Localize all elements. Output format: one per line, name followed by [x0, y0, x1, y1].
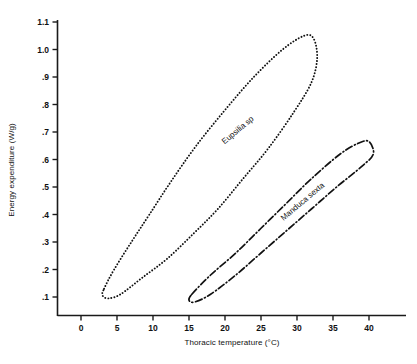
x-tick-label: 5 — [115, 323, 120, 333]
x-tick-label: 10 — [148, 323, 158, 333]
y-tick-label: .5 — [42, 182, 49, 192]
x-tick-label: 25 — [256, 323, 266, 333]
x-tick-label: 15 — [184, 323, 194, 333]
x-tick-label: 20 — [220, 323, 230, 333]
y-tick-label: .2 — [42, 265, 49, 275]
y-tick-label: .8 — [42, 100, 49, 110]
y-tick-label: .1 — [42, 292, 49, 302]
plot-background — [0, 0, 417, 364]
y-tick-label: .4 — [42, 210, 49, 220]
x-tick-label: 40 — [364, 323, 374, 333]
y-tick-label: 1.1 — [37, 17, 49, 27]
x-tick-label: 35 — [328, 323, 338, 333]
y-tick-label: .6 — [42, 155, 49, 165]
y-axis-title: Energy expenditure (W/g) — [7, 123, 16, 217]
y-tick-label: .9 — [42, 72, 49, 82]
x-tick-label: 30 — [292, 323, 302, 333]
scatter-plot-canvas: 1.11.0.9.8.7.6.5.4.3.2.1 051015202530354… — [0, 0, 417, 364]
y-tick-label: .7 — [42, 127, 49, 137]
x-axis-title: Thoracic temperature (°C) — [184, 338, 279, 347]
chart-figure: 1.11.0.9.8.7.6.5.4.3.2.1 051015202530354… — [0, 0, 417, 364]
y-tick-label: .3 — [42, 237, 49, 247]
y-tick-label: 1.0 — [37, 45, 49, 55]
x-tick-label: 0 — [79, 323, 84, 333]
